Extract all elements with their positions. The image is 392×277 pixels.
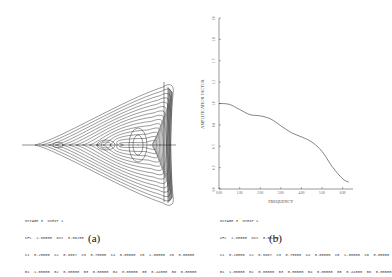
svg-text:1.5: 1.5 bbox=[212, 58, 216, 63]
param-line: CFL 2.80000 DIS 0.06250 bbox=[25, 236, 197, 242]
param-line: C1 0.25000 C2 0.6667 C3 0.75000 C4 0.000… bbox=[220, 253, 392, 259]
param-line: C1 0.25000 C2 0.6667 C3 0.75000 C4 0.000… bbox=[25, 253, 197, 259]
caption-a: (a) bbox=[88, 232, 100, 244]
svg-text:0.8: 0.8 bbox=[212, 122, 216, 127]
amplification-curve bbox=[219, 104, 349, 183]
svg-text:2.0: 2.0 bbox=[212, 16, 216, 21]
parameter-block-a: NSTAGE 3 NSHIP 1 CFL 2.80000 DIS 0.06250… bbox=[25, 208, 197, 277]
x-axis-title: FREQUENCY bbox=[268, 199, 293, 204]
svg-text:0.0: 0.0 bbox=[212, 187, 216, 192]
svg-text:3.00: 3.00 bbox=[278, 191, 284, 195]
svg-text:2.00: 2.00 bbox=[257, 191, 263, 195]
svg-text:0.2: 0.2 bbox=[212, 165, 216, 170]
panel-b-line-chart: 0.001.002.003.004.005.006.000.00.20.50.8… bbox=[195, 0, 369, 257]
param-line: NSTAGE 3 NSHIP 1 bbox=[220, 219, 392, 225]
svg-text:1.2: 1.2 bbox=[212, 80, 216, 85]
svg-text:4.00: 4.00 bbox=[298, 191, 304, 195]
svg-text:0.00: 0.00 bbox=[216, 191, 222, 195]
param-line: B1 1.00000 B2 0.00000 B3 0.50000 B4 0.00… bbox=[220, 270, 392, 276]
svg-text:1.8: 1.8 bbox=[212, 37, 216, 42]
caption-b: (b) bbox=[269, 232, 282, 244]
svg-text:6.00: 6.00 bbox=[340, 191, 346, 195]
svg-text:5.00: 5.00 bbox=[319, 191, 325, 195]
param-line: CFL 2.80000 DIS 0.06250 bbox=[220, 236, 392, 242]
chart-axes bbox=[219, 18, 353, 189]
panel-a-contour-plot: NSTAGE 3 NSHIP 1 CFL 2.80000 DIS 0.06250… bbox=[0, 0, 190, 257]
svg-text:1.00: 1.00 bbox=[237, 191, 243, 195]
y-axis-title: AMPLIFICATION FACTOR bbox=[200, 79, 205, 128]
svg-text:1.0: 1.0 bbox=[212, 101, 216, 106]
parameter-block-b: NSTAGE 3 NSHIP 1 CFL 2.80000 DIS 0.06250… bbox=[220, 208, 392, 277]
param-line: NSTAGE 3 NSHIP 1 bbox=[25, 219, 197, 225]
svg-text:0.5: 0.5 bbox=[212, 144, 216, 149]
param-line: B1 1.00000 B2 0.00000 B3 0.50000 B4 0.00… bbox=[25, 270, 197, 276]
